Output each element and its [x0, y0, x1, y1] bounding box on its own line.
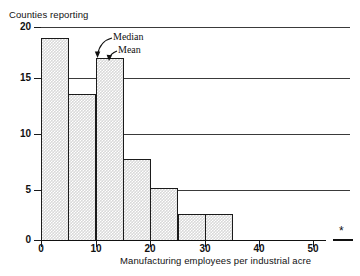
histogram-chart: Counties reporting Manufacturing employe…: [0, 0, 360, 276]
median-arrow-head: [95, 52, 101, 59]
annotation-arrows: [0, 0, 360, 276]
mean-arrow-head: [107, 55, 113, 61]
